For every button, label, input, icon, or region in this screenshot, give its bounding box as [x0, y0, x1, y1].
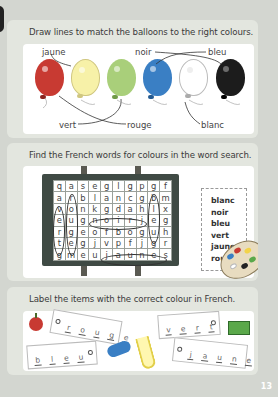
balloon-instruction: Draw lines to match the balloons to the …	[7, 20, 258, 42]
word-search-area: qaseglgpgf arblancgbm vonkgdahlx eugnoir…	[23, 166, 254, 278]
found-word-noir	[89, 218, 147, 230]
worksheet-page: Draw lines to match the balloons to the …	[0, 0, 278, 397]
tag-rouge[interactable]: rouge	[49, 309, 122, 345]
grid-cell[interactable]: u	[89, 249, 101, 260]
label-items-panel: Label the items with the correct colour …	[7, 287, 258, 375]
grid-cell[interactable]: j	[136, 237, 148, 248]
grid-cell[interactable]: d	[112, 203, 124, 214]
grid-cell[interactable]: a	[101, 192, 113, 203]
grid-cell[interactable]: a	[65, 181, 77, 192]
grid-cell[interactable]: g	[136, 192, 148, 203]
word-search-panel: Find the French words for colours in the…	[7, 143, 258, 281]
label-area: rouge bleu vert	[23, 311, 254, 371]
grid-cell[interactable]: a	[54, 192, 66, 203]
grid-cell[interactable]: g	[77, 237, 89, 248]
word-vert: vert	[211, 230, 246, 242]
grid-cell[interactable]: h	[136, 203, 148, 214]
banana-icon	[135, 336, 157, 371]
grid-cell[interactable]: p	[136, 181, 148, 192]
tag-vert[interactable]: vert	[157, 311, 221, 339]
grid-cell[interactable]: q	[54, 181, 66, 192]
grid-cell[interactable]: r	[160, 237, 172, 248]
grid-cell[interactable]: f	[124, 237, 136, 248]
grid-cell[interactable]: e	[77, 249, 89, 260]
grid-cell[interactable]: f	[160, 181, 172, 192]
matching-lines	[23, 44, 258, 134]
grid-cell[interactable]: c	[124, 192, 136, 203]
grid-cell[interactable]: g	[148, 181, 160, 192]
page-edge-tab	[0, 6, 4, 32]
grid-cell[interactable]: x	[160, 203, 172, 214]
grid-cell[interactable]: e	[77, 226, 89, 237]
word-search-instruction: Find the French words for colours in the…	[7, 143, 258, 165]
grid-cell[interactable]: s	[77, 181, 89, 192]
grid-cell[interactable]: g	[101, 181, 113, 192]
tag-jaune[interactable]: jaune	[172, 337, 248, 369]
grid-cell[interactable]: m	[160, 192, 172, 203]
found-word-bleu	[148, 194, 160, 244]
grid-cell[interactable]: g	[124, 181, 136, 192]
grid-cell[interactable]: n	[77, 203, 89, 214]
found-word-jaune	[101, 254, 167, 266]
grid-cell[interactable]: p	[112, 237, 124, 248]
grid-cell[interactable]: g	[77, 215, 89, 226]
grid-cell[interactable]: e	[89, 181, 101, 192]
grid-cell[interactable]: g	[101, 203, 113, 214]
found-word-vert	[53, 206, 65, 256]
apple-icon	[29, 317, 43, 331]
word-noir: noir	[211, 207, 246, 219]
tag-bleu[interactable]: bleu	[26, 341, 98, 370]
grid-cell[interactable]: v	[101, 237, 113, 248]
grid-cell[interactable]: l	[89, 192, 101, 203]
grid-cell[interactable]: g	[160, 215, 172, 226]
grid-cell[interactable]: n	[112, 192, 124, 203]
present-icon	[228, 321, 250, 335]
grid-cell[interactable]: l	[112, 181, 124, 192]
label-instruction: Label the items with the correct colour …	[7, 287, 258, 309]
word-bleu: bleu	[211, 218, 246, 230]
apple-stem	[35, 313, 37, 318]
balloon-area: jaune noir bleu vert rouge blanc	[23, 44, 254, 134]
grid-cell[interactable]: a	[124, 203, 136, 214]
word-blanc: blanc	[211, 195, 246, 207]
grid-cell[interactable]: b	[77, 192, 89, 203]
grid-cell[interactable]: h	[160, 226, 172, 237]
grid-cell[interactable]: k	[89, 203, 101, 214]
page-number: 13	[261, 382, 272, 391]
found-word-rouge	[66, 194, 78, 256]
grid-cell[interactable]: j	[89, 237, 101, 248]
balloon-matching-panel: Draw lines to match the balloons to the …	[7, 20, 258, 138]
